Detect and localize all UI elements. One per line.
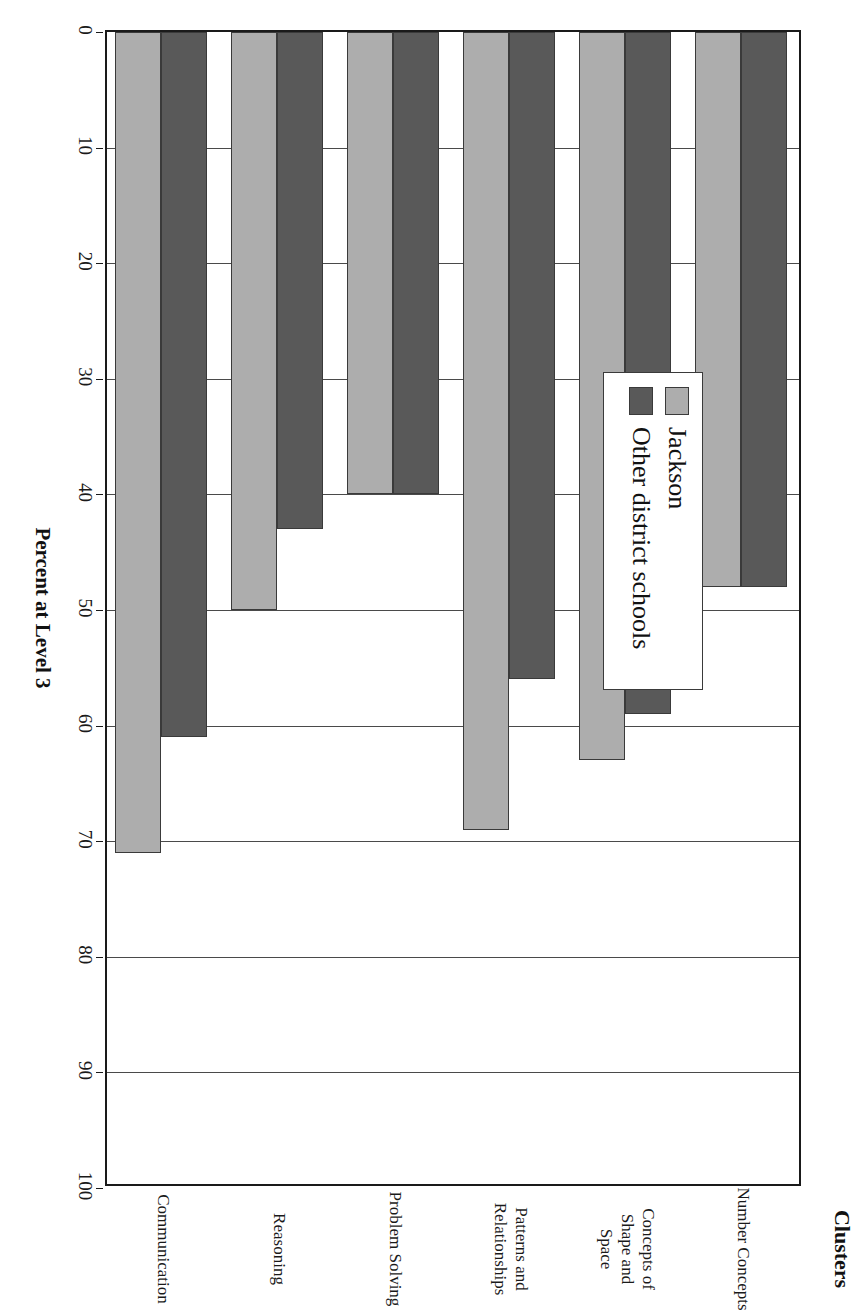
bar-other-district-schools-problem-solving [393,32,439,494]
category-label: Communication [153,1186,174,1312]
axis-tick [96,263,103,264]
bar-other-district-schools-communication [161,32,207,737]
category-label: Problem Solving [385,1186,406,1312]
chart-legend: Jackson Other district schools [603,372,703,690]
dark-gray-swatch-icon [629,387,653,415]
gridline [107,1072,799,1073]
grouped-bar-chart: 0102030405060708090100 Percent at Level … [0,0,855,1316]
value-axis-title: Percent at Level 3 [30,0,55,1216]
legend-item-label: Jackson [664,427,690,509]
value-axis-tick-label: 60 [76,714,95,733]
axis-tick [96,32,103,33]
value-axis-tick-label: 0 [76,25,95,35]
axis-tick [96,1072,103,1073]
category-label: Patterns andRelationships [490,1186,532,1312]
light-gray-swatch-icon [665,387,689,415]
bar-jackson-communication [115,32,161,853]
category-label: Number Concepts [733,1186,754,1312]
value-axis-tick-label: 30 [76,367,95,386]
value-axis-tick-labels: 0102030405060708090100 [55,30,95,1186]
bar-jackson-problem-solving [347,32,393,494]
bar-other-district-schools-number-concepts [741,32,787,587]
gridline [107,726,799,727]
value-axis-tick-label: 90 [76,1061,95,1080]
axis-tick [96,1188,103,1189]
bar-other-district-schools-reasoning [277,32,323,529]
axis-tick [96,726,103,727]
category-label: Concepts of Shape andSpace [596,1186,659,1312]
bar-jackson-patterns-and-relationships [463,32,509,830]
legend-item-jackson: Jackson [664,387,690,675]
value-axis-tick-label: 20 [76,252,95,271]
value-axis-tick-label: 100 [76,1172,95,1201]
rotated-page-wrapper: 0102030405060708090100 Percent at Level … [0,0,855,1316]
value-axis-tick-label: 80 [76,945,95,964]
category-label: Reasoning [269,1186,290,1312]
value-axis-tick-label: 70 [76,830,95,849]
legend-item-label: Other district schools [628,427,654,649]
category-axis-title: Clusters [829,1186,855,1312]
gridline [107,957,799,958]
axis-tick [96,957,103,958]
axis-tick [96,494,103,495]
bar-jackson-reasoning [231,32,277,610]
value-axis-tick-label: 50 [76,599,95,618]
gridline [107,841,799,842]
axis-tick [96,841,103,842]
axis-tick [96,610,103,611]
category-axis-tick-labels: Number ConceptsConcepts of Shape andSpac… [105,1186,801,1312]
bar-other-district-schools-patterns-and-relationships [509,32,555,679]
value-axis-tick-label: 40 [76,483,95,502]
value-axis-tick-label: 10 [76,136,95,155]
axis-tick [96,148,103,149]
axis-tick [96,379,103,380]
legend-item-other-district-schools: Other district schools [628,387,654,675]
